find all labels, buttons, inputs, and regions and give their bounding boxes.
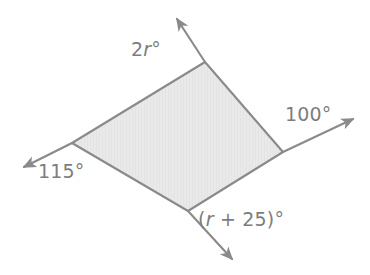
- figure-canvas: [0, 0, 370, 275]
- angle-label-bottom: (r + 25)°: [198, 208, 284, 230]
- angle-label-left: 115°: [38, 160, 85, 182]
- quadrilateral-shape: [72, 62, 283, 211]
- angle-label-bottom-suffix: + 25)°: [214, 208, 285, 230]
- angle-label-top-prefix: 2: [131, 38, 143, 60]
- angle-label-top: 2r°: [131, 38, 161, 60]
- geometry-figure: 2r° 100° (r + 25)° 115°: [0, 0, 370, 275]
- ray-top-left-arrow: [177, 19, 205, 62]
- angle-label-top-suffix: °: [151, 38, 161, 60]
- angle-label-bottom-variable: r: [206, 208, 214, 230]
- angle-label-right: 100°: [285, 103, 332, 125]
- angle-label-bottom-prefix: (: [198, 208, 206, 230]
